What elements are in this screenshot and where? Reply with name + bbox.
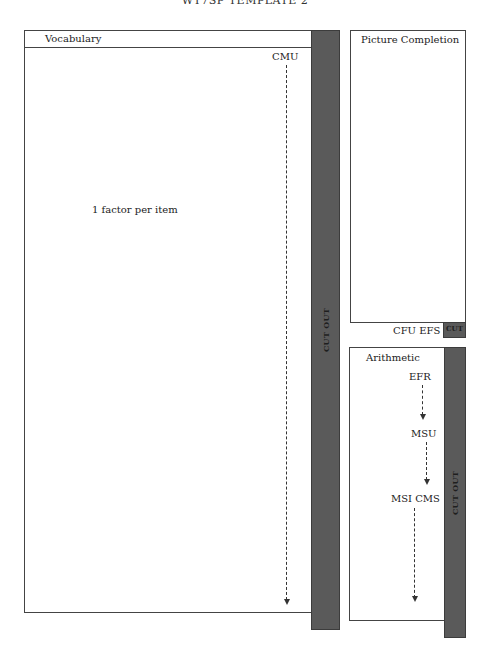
picture-completion-cutout-block: CUT <box>443 322 466 338</box>
efr-msu-dashed-line <box>422 385 423 415</box>
arithmetic-panel: Arithmetic EFR MSU MSI CMS <box>349 347 445 621</box>
msu-msi-arrowhead-icon <box>424 479 430 485</box>
cfu-efs-factor-labels: CFU EFS <box>393 325 440 336</box>
vocabulary-header-divider <box>25 47 311 48</box>
vocabulary-header: Vocabulary <box>45 33 101 44</box>
cmu-factor-label: CMU <box>272 51 298 62</box>
page-title: WT7SP TEMPLATE 2 <box>0 0 490 7</box>
picture-completion-panel: Picture Completion <box>350 30 466 323</box>
efr-msu-arrowhead-icon <box>420 414 426 420</box>
msu-node: MSU <box>411 428 437 439</box>
arithmetic-cutout-bar: CUT OUT <box>444 347 466 638</box>
vocabulary-cutout-bar: CUT OUT <box>311 30 340 630</box>
msi-cms-dashed-line <box>414 508 415 598</box>
picture-completion-cutout-label: CUT <box>444 324 465 333</box>
efr-node: EFR <box>409 371 431 382</box>
msu-msi-dashed-line <box>426 442 427 480</box>
msi-cms-arrowhead-icon <box>412 596 418 602</box>
cmu-arrowhead-icon <box>284 599 290 605</box>
arithmetic-header: Arithmetic <box>366 352 420 363</box>
arithmetic-cutout-label: CUT OUT <box>450 470 460 514</box>
vocabulary-panel: Vocabulary CMU 1 factor per item <box>24 30 312 613</box>
vocabulary-cutout-label: CUT OUT <box>321 308 331 352</box>
cmu-dashed-arrow-line <box>286 65 287 600</box>
factor-per-item-note: 1 factor per item <box>92 204 178 215</box>
msi-cms-node: MSI CMS <box>391 493 440 504</box>
picture-completion-header: Picture Completion <box>361 34 459 45</box>
